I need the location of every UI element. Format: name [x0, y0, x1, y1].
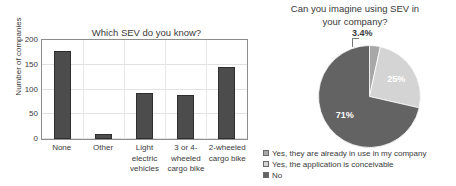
- y-tick-label-0: 0: [34, 134, 38, 143]
- legend-label: No: [272, 171, 282, 180]
- bar-none: [54, 51, 71, 139]
- x-tick-line: wheeled: [165, 154, 206, 165]
- pie-svg: [318, 45, 421, 148]
- legend-item-already-in-use: Yes, they are already in use in my compa…: [263, 148, 455, 158]
- legend-item-conceivable: Yes, the application is conceivable: [263, 159, 455, 169]
- x-tick-label-3-or-4-wheeled-cargo-bike: 3 or 4- wheeled cargo bike: [165, 143, 206, 175]
- x-tick-line: 3 or 4-: [165, 143, 206, 154]
- y-tick-label-50: 50: [29, 109, 38, 118]
- legend-swatch-icon: [263, 150, 269, 156]
- pie-chart-graphic: 25% 71%: [318, 45, 421, 148]
- pie-chart-title-line-1: Can you imagine using SEV in: [260, 3, 450, 16]
- pie-slice-label-71: 71%: [336, 110, 354, 120]
- pie-chart-title: Can you imagine using SEV in your compan…: [260, 3, 450, 28]
- legend-item-no: No: [263, 170, 455, 180]
- x-tick-label-none: None: [41, 143, 82, 154]
- x-tick-line: None: [41, 143, 82, 154]
- bar-chart-plot-area: 0 50 100 150 200: [41, 39, 248, 140]
- bar-light-electric: [136, 93, 153, 139]
- bar-2-wheeled: [218, 67, 235, 139]
- x-tick-label-light-electric-vehicles: Light electric vehicles: [124, 143, 165, 175]
- bar-chart-title: Which SEV do you know?: [44, 27, 249, 38]
- x-tick-line: Light: [124, 143, 165, 154]
- legend-label: Yes, the application is conceivable: [272, 160, 394, 169]
- x-tick-line: cargo bike: [207, 154, 248, 165]
- x-tick-line: cargo bike: [165, 164, 206, 175]
- pie-chart-legend: Yes, they are already in use in my compa…: [263, 148, 455, 181]
- legend-label: Yes, they are already in use in my compa…: [272, 149, 426, 158]
- legend-swatch-icon: [263, 161, 269, 167]
- legend-swatch-icon: [263, 172, 269, 178]
- bar-series: [42, 40, 247, 139]
- y-tick-label-150: 150: [25, 59, 38, 68]
- x-tick-line: electric: [124, 154, 165, 165]
- bar-chart-y-axis-label: Number of companies: [14, 2, 23, 112]
- pie-callout-label: 3.4%: [352, 28, 373, 38]
- x-tick-line: 2-wheeled: [207, 143, 248, 154]
- x-tick-label-other: Other: [82, 143, 123, 154]
- x-tick-label-2-wheeled-cargo-bike: 2-wheeled cargo bike: [207, 143, 248, 164]
- x-tick-line: vehicles: [124, 164, 165, 175]
- pie-callout-elbow: [352, 38, 359, 39]
- pie-slice-label-25: 25%: [387, 74, 405, 84]
- x-tick-line: Other: [82, 143, 123, 154]
- y-tick-label-200: 200: [25, 35, 38, 44]
- bar-3-or-4-wheeled: [177, 95, 194, 139]
- bar-other: [95, 134, 112, 139]
- bar-chart-figure: Which SEV do you know? Number of compani…: [0, 0, 252, 186]
- y-tick-label-100: 100: [25, 84, 38, 93]
- pie-chart-title-line-2: your company?: [260, 16, 450, 29]
- bar-chart-x-axis-labels: None Other Light electric vehicles 3 or …: [41, 143, 248, 186]
- pie-chart-figure: Can you imagine using SEV in your compan…: [252, 0, 456, 186]
